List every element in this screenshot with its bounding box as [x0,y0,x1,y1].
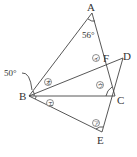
marker-u: ウ [98,82,103,88]
point-label-E: E [97,134,104,146]
geometry-diagram: A B C D E F 56° 50° オ イ ウ エ ア [0,0,137,157]
point-label-A: A [87,1,95,13]
angle-50-leader [22,73,32,90]
segment-BE [29,96,102,132]
angle-value-A: 56° [82,30,95,40]
angle-arc-C [106,87,112,96]
point-label-D: D [123,50,131,62]
marker-a: ア [94,120,99,127]
marker-o: オ [46,79,51,85]
point-label-B: B [19,90,26,102]
marker-i: イ [94,55,99,61]
angle-arc-B [33,91,34,96]
angle-arc-E [96,127,103,129]
point-label-F: F [103,52,109,64]
angle-value-B: 50° [4,68,17,78]
marker-e: エ [48,100,53,106]
point-label-C: C [117,94,124,106]
